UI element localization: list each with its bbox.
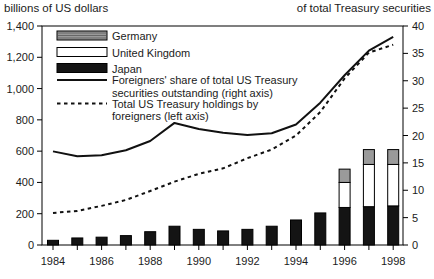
legend-label: foreigners (left axis) xyxy=(112,110,209,122)
bar-japan-1987 xyxy=(120,236,131,245)
bar-japan-1991 xyxy=(218,231,229,245)
x-axis-tick-label: 1986 xyxy=(89,255,113,267)
right-axis-tick-label: 15 xyxy=(412,157,424,169)
x-axis-tick-label: 1984 xyxy=(41,255,65,267)
bar-japan-1998 xyxy=(388,206,399,245)
legend: GermanyUnited KingdomJapanForeigners' sh… xyxy=(57,30,298,122)
right-axis-tick-label: 5 xyxy=(412,212,418,224)
bar-japan-1986 xyxy=(96,237,107,245)
legend-label: Foreigners' share of total US Treasury xyxy=(112,74,298,86)
x-axis-tick-label: 1992 xyxy=(235,255,259,267)
left-axis-tick-label: 1,000 xyxy=(6,83,34,95)
legend-label: Japan xyxy=(112,63,142,75)
legend-label: United Kingdom xyxy=(112,47,190,59)
bar-germany-1997 xyxy=(363,150,374,165)
bar-germany-1996 xyxy=(339,169,350,182)
y-axis-right: 0510152025303540 xyxy=(403,20,424,251)
right-axis-tick-label: 35 xyxy=(412,47,424,59)
bar-japan-1996 xyxy=(339,207,350,245)
bar-japan-1988 xyxy=(145,232,156,245)
bar-japan-1993 xyxy=(266,226,277,245)
right-axis-tick-label: 20 xyxy=(412,130,424,142)
left-axis-tick-label: 1,200 xyxy=(6,51,34,63)
bar-united-kingdom-1997 xyxy=(363,164,374,206)
x-axis-tick-label: 1996 xyxy=(332,255,356,267)
x-axis-tick-label: 1994 xyxy=(284,255,308,267)
x-axis-tick-label: 1988 xyxy=(138,255,162,267)
x-axis-tick-label: 1990 xyxy=(187,255,211,267)
right-axis-tick-label: 10 xyxy=(412,184,424,196)
bar-united-kingdom-1996 xyxy=(339,182,350,207)
x-axis: 19841986198819901992199419961998 xyxy=(41,245,406,267)
bar-japan-swatch xyxy=(57,64,107,73)
right-axis-tick-label: 25 xyxy=(412,102,424,114)
bar-united-kingdom-swatch xyxy=(57,48,107,57)
bar-japan-1994 xyxy=(291,220,302,245)
holdings-bars xyxy=(48,150,399,245)
left-axis-tick-label: 0 xyxy=(28,239,34,251)
bar-japan-1984 xyxy=(48,240,59,245)
bar-united-kingdom-1998 xyxy=(388,164,399,205)
bar-japan-1992 xyxy=(242,229,253,245)
left-axis-tick-label: 600 xyxy=(16,145,34,157)
chart-figure: billions of US dollars of total Treasury… xyxy=(0,0,434,279)
y-axis-left: 02004006008001,0001,2001,400 xyxy=(6,20,42,251)
left-axis-tick-label: 1,400 xyxy=(6,20,34,32)
bar-japan-1985 xyxy=(72,238,83,245)
bar-japan-1989 xyxy=(169,226,180,245)
legend-label: Germany xyxy=(112,30,158,42)
bar-japan-1997 xyxy=(363,207,374,245)
right-axis-tick-label: 0 xyxy=(412,239,418,251)
bar-japan-1990 xyxy=(193,229,204,245)
x-axis-tick-label: 1998 xyxy=(381,255,405,267)
right-axis-tick-label: 30 xyxy=(412,75,424,87)
bar-germany-1998 xyxy=(388,150,399,165)
left-axis-tick-label: 800 xyxy=(16,114,34,126)
left-axis-tick-label: 400 xyxy=(16,176,34,188)
left-axis-tick-label: 200 xyxy=(16,208,34,220)
legend-label: Total US Treasury holdings by xyxy=(112,98,259,110)
right-axis-tick-label: 40 xyxy=(412,20,424,32)
bar-japan-1995 xyxy=(315,213,326,245)
treasury-holdings-chart: 02004006008001,0001,2001,400051015202530… xyxy=(0,0,434,279)
